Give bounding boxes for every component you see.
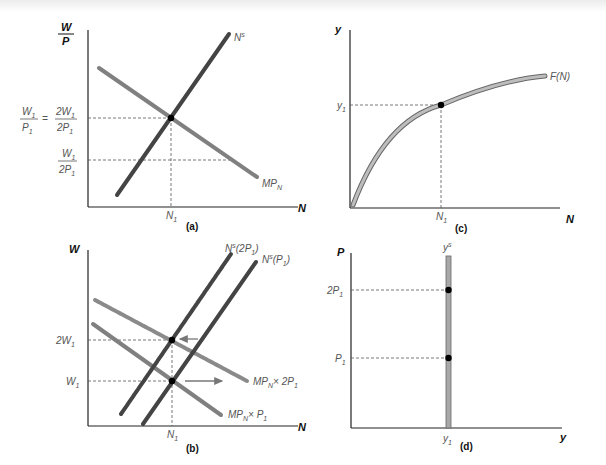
y-tick-2p1: 2P1 (326, 285, 343, 298)
y-axis-label-num: W (61, 21, 73, 33)
aggregate-supply-line (446, 256, 451, 428)
ns-2p1-curve (121, 254, 231, 414)
ns-p1-label: Ns(P1) (262, 253, 290, 267)
fn-label: F(N) (550, 71, 570, 82)
mpn-curve (99, 68, 257, 177)
svg-text:2P1: 2P1 (58, 164, 75, 177)
production-function-curve (353, 76, 545, 205)
equilibrium-point (168, 115, 174, 121)
y-axis-label: y (334, 23, 342, 35)
x-tick-n1: N1 (166, 210, 177, 223)
x-tick-n1: N1 (436, 211, 447, 224)
svg-text:2W1: 2W1 (55, 106, 75, 119)
y-tick-y1: y1 (336, 100, 346, 113)
x-axis-label: y (559, 431, 567, 443)
panel-caption-a: (a) (186, 221, 198, 232)
mpn-2p1-label: MPN× 2P1 (253, 376, 298, 389)
x-axis-label: N (298, 421, 307, 433)
ys-label: ys (442, 241, 452, 253)
x-axis-label: N (566, 213, 575, 225)
panel-a: W P Ns MPN W1 P1 = 2W1 2P1 W1 2P1 N1 (20, 21, 307, 232)
panel-c: y F(N) y1 N1 N (c) (334, 23, 575, 234)
x-tick-y1: y1 (442, 433, 452, 446)
macro-diagram: W P Ns MPN W1 P1 = 2W1 2P1 W1 2P1 N1 (0, 0, 606, 465)
panel-b: W Ns(2P1) Ns(P1) MPN× 2P1 MPN× P1 2W1 W1… (55, 242, 307, 454)
panel-caption-b: (b) (186, 443, 199, 454)
labor-supply-curve (117, 34, 229, 195)
svg-text:W1: W1 (62, 148, 75, 161)
y-axis-label: P (337, 246, 345, 258)
production-function-outline (353, 76, 545, 205)
mpn-p1-label: MPN× P1 (228, 409, 267, 422)
svg-text:2P1: 2P1 (56, 122, 73, 135)
panel-caption-c: (c) (455, 223, 467, 234)
mpn-label: MPN (262, 178, 283, 191)
ns-label: Ns (234, 31, 245, 43)
x-tick-n1: N1 (167, 429, 178, 442)
point-2p1 (445, 287, 451, 293)
y-tick-low: W1 2P1 (58, 148, 77, 177)
y-tick-p1: P1 (335, 353, 346, 366)
svg-text:W1: W1 (22, 106, 35, 119)
equilibrium-point (438, 102, 444, 108)
point-w1 (169, 378, 175, 384)
point-2w1 (169, 337, 175, 343)
svg-text:P1: P1 (22, 122, 33, 135)
point-p1 (445, 355, 451, 361)
ns-2p1-label: Ns(2P1) (225, 242, 259, 256)
y-axis-label: W (69, 243, 81, 255)
y-tick-high: W1 P1 = 2W1 2P1 (20, 106, 77, 135)
panel-d: P ys 2P1 P1 y1 y (d) (326, 241, 567, 452)
panel-caption-d: (d) (460, 441, 473, 452)
x-axis-label: N (298, 202, 307, 214)
y-axis-label-den: P (62, 35, 70, 47)
svg-text:=: = (42, 113, 48, 124)
y-tick-2w1: 2W1 (55, 335, 75, 348)
y-tick-w1: W1 (66, 376, 79, 389)
